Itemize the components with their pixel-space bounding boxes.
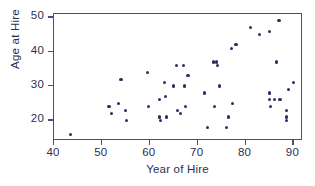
data-point	[206, 126, 209, 129]
data-point	[218, 84, 221, 87]
data-point	[231, 102, 234, 105]
x-axis-tick	[197, 140, 198, 145]
data-point	[110, 112, 113, 115]
data-point	[285, 109, 288, 112]
data-point	[147, 105, 150, 108]
data-point	[119, 78, 122, 81]
data-point	[213, 105, 216, 108]
data-point	[172, 84, 175, 87]
data-point	[175, 64, 178, 67]
plot-area	[53, 13, 302, 140]
x-axis-tick-label: 40	[33, 146, 73, 158]
y-axis-tick-label: 50	[8, 9, 44, 21]
data-point	[125, 119, 128, 122]
data-point	[124, 109, 127, 112]
data-point	[69, 133, 72, 136]
x-axis-tick	[149, 140, 150, 145]
data-point	[107, 105, 110, 108]
data-point	[268, 30, 271, 33]
data-point	[268, 98, 271, 101]
data-point	[183, 84, 186, 87]
data-point	[203, 91, 206, 94]
x-axis-tick-label: 80	[225, 146, 265, 158]
data-point	[278, 98, 281, 101]
data-point	[277, 19, 280, 22]
data-point	[146, 71, 149, 74]
data-point	[163, 81, 166, 84]
y-axis-tick	[48, 85, 53, 86]
data-point	[269, 105, 272, 108]
x-axis-tick-label: 50	[81, 146, 121, 158]
x-axis-tick	[245, 140, 246, 145]
data-point	[117, 102, 120, 105]
data-point	[176, 109, 179, 112]
data-point	[227, 115, 230, 118]
data-point	[164, 95, 167, 98]
y-axis-tick	[48, 16, 53, 17]
x-axis-label: Year of Hire	[53, 163, 302, 175]
data-point	[258, 33, 261, 36]
data-point	[273, 98, 276, 101]
data-point	[268, 91, 271, 94]
data-point	[287, 88, 290, 91]
data-point	[285, 119, 288, 122]
data-point	[230, 47, 233, 50]
data-point	[184, 105, 187, 108]
x-axis-tick	[292, 140, 293, 145]
x-axis-tick-label: 70	[177, 146, 217, 158]
y-axis-tick-label: 30	[8, 78, 44, 90]
data-point	[158, 98, 161, 101]
data-points-layer	[54, 14, 301, 139]
x-axis-tick-label: 90	[272, 146, 312, 158]
data-point	[292, 81, 295, 84]
scatter-plot-figure: Year of Hire Age at Hire 405060708090203…	[0, 0, 315, 186]
data-point	[225, 126, 228, 129]
data-point	[216, 64, 219, 67]
y-axis-tick	[48, 51, 53, 52]
data-point	[249, 26, 252, 29]
x-axis-tick	[101, 140, 102, 145]
x-axis-tick-label: 60	[129, 146, 169, 158]
data-point	[234, 43, 237, 46]
data-point	[179, 112, 182, 115]
data-point	[165, 115, 168, 118]
data-point	[186, 74, 189, 77]
data-point	[182, 64, 185, 67]
data-point	[159, 119, 162, 122]
x-axis-tick	[53, 140, 54, 145]
y-axis-tick-label: 40	[8, 44, 44, 56]
y-axis-tick	[48, 119, 53, 120]
y-axis-tick-label: 20	[8, 112, 44, 124]
data-point	[275, 60, 278, 63]
